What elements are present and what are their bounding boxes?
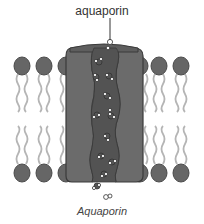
- lipid-head: [36, 57, 52, 75]
- lipid-head: [14, 57, 30, 75]
- lipid-head: [173, 57, 189, 75]
- water-molecule: [108, 108, 111, 111]
- lipid-head: [151, 164, 167, 182]
- water-molecule: [92, 183, 100, 190]
- water-molecule: [104, 194, 112, 199]
- lipid-head: [14, 164, 30, 182]
- water-molecule: [97, 153, 104, 159]
- lipid-head: [173, 164, 189, 182]
- lipid-head: [36, 164, 52, 182]
- caption: Aquaporin: [0, 205, 204, 217]
- aquaporin-protein: [66, 44, 143, 182]
- lipid-head: [151, 57, 167, 75]
- aquaporin-diagram: [0, 0, 204, 224]
- protein-right-half: [115, 48, 143, 182]
